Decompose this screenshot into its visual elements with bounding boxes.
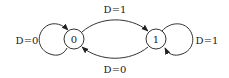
edge-label-0-to-1: D=1 <box>104 4 127 15</box>
edge-label-0-to-0: D=0 <box>16 35 39 46</box>
state-node-0: 0 <box>64 29 84 49</box>
edge-label-1-to-0: D=0 <box>104 64 127 75</box>
edge-1-to-0 <box>82 47 148 58</box>
edge-1-to-1 <box>162 24 193 55</box>
state-diagram: 0 1 D=0 D=1 D=1 D=0 <box>0 0 229 78</box>
state-node-0-label: 0 <box>71 34 77 45</box>
edge-label-1-to-1: D=1 <box>196 35 219 46</box>
edge-0-to-1 <box>82 20 148 32</box>
state-node-1-label: 1 <box>153 34 159 45</box>
state-node-1: 1 <box>146 29 166 49</box>
